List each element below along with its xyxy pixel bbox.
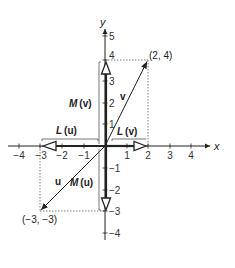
label-L-v: L(v) (117, 126, 137, 137)
y-tick-label: −2 (109, 185, 121, 196)
label-L-u: L(u) (56, 125, 77, 136)
vector-M-u (102, 146, 111, 210)
label-L-u-arg: (u) (64, 125, 77, 136)
x-axis: −4 −3 −2 −1 1 2 3 4 x (8, 140, 220, 161)
linear-transform-diagram: −4 −3 −2 −1 1 2 3 4 x 5 (0, 0, 235, 268)
label-M-v-letter: M (69, 98, 78, 109)
label-M-u: M(u) (70, 177, 93, 188)
x-tick-label: 4 (188, 150, 194, 161)
label-L-v-letter: L (117, 126, 123, 137)
x-tick-label: −3 (35, 150, 47, 161)
vector-u-label: u (55, 176, 61, 187)
label-L-v-arg: (v) (125, 126, 137, 137)
x-tick-label: −4 (13, 150, 25, 161)
coordinate-plane: −4 −3 −2 −1 1 2 3 4 x 5 (0, 0, 235, 268)
y-tick-label: −1 (109, 163, 121, 174)
label-M-u-letter: M (70, 177, 79, 188)
y-tick-label: 2 (109, 98, 115, 109)
x-tick-label: 3 (167, 150, 173, 161)
label-M-v: M(v) (69, 98, 92, 109)
x-axis-label: x (213, 140, 220, 152)
label-L-u-letter: L (56, 125, 62, 136)
label-M-u-arg: (u) (80, 177, 93, 188)
vector-L-u (43, 142, 105, 151)
vector-v: v (2, 4) (105, 50, 172, 146)
point-u-label: (−3, −3) (22, 214, 57, 225)
x-tick-label: −2 (56, 150, 68, 161)
y-tick-label: 3 (109, 76, 115, 87)
y-tick-label: 5 (109, 31, 115, 42)
vector-v-label: v (120, 91, 126, 102)
label-M-v-arg: (v) (79, 98, 91, 109)
x-tick-label: 2 (145, 150, 151, 161)
y-tick-label: −4 (109, 228, 121, 239)
y-tick-label: 4 (109, 50, 115, 61)
x-tick-label: 1 (124, 150, 130, 161)
point-v-label: (2, 4) (149, 50, 172, 61)
y-tick-label: −3 (109, 206, 121, 217)
x-tick-label: −1 (78, 150, 90, 161)
y-axis-label: y (99, 16, 107, 28)
